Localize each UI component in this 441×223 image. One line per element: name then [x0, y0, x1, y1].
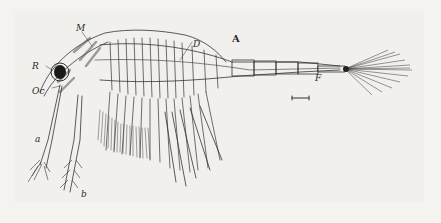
label-d: D: [193, 40, 200, 49]
label-r: R: [32, 62, 39, 71]
label-f: F: [315, 74, 321, 83]
scale-bar: [292, 96, 309, 100]
crustacean-illustration: [0, 0, 441, 223]
label-oc: Oc: [32, 87, 44, 96]
panel-label: A: [232, 34, 240, 44]
label-a: a: [35, 135, 40, 144]
label-b: b: [81, 190, 87, 199]
label-m: M: [76, 24, 85, 33]
page-background: A M R Oc D F a b: [0, 0, 441, 223]
